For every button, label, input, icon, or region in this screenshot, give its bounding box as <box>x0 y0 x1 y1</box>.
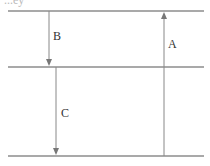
arrow-a-head-icon <box>161 12 167 19</box>
arrow-c-head-icon <box>53 148 59 155</box>
label-c: C <box>61 106 69 120</box>
arrow-b-head-icon <box>46 59 52 66</box>
energy-level-diagram: ...ey B A C <box>0 0 210 166</box>
arrow-a <box>161 12 167 156</box>
label-b: B <box>53 29 61 43</box>
label-a: A <box>168 37 177 51</box>
arrow-b <box>46 11 52 66</box>
arrow-c <box>53 67 59 155</box>
cut-off-caption: ...ey <box>4 0 24 7</box>
